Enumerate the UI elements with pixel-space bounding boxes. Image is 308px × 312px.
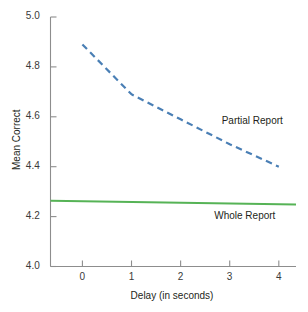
- x-axis-tick-label: 1: [124, 271, 140, 282]
- series-label-partial-report: Partial Report: [222, 115, 283, 126]
- y-axis-tick-label: 4.8: [14, 60, 40, 71]
- x-axis-tick-label: 0: [74, 271, 90, 282]
- series-label-whole-report: Whole Report: [214, 210, 275, 221]
- y-axis-tick-label: 4.0: [14, 260, 40, 271]
- chart-plot-area: [0, 0, 308, 312]
- y-axis-title: Mean Correct: [11, 109, 22, 170]
- axis-ticks: [51, 17, 279, 267]
- x-axis-tick-label: 3: [222, 271, 238, 282]
- axis-lines: [51, 17, 297, 267]
- y-axis-tick-label: 4.2: [14, 210, 40, 221]
- x-axis-tick-label: 2: [173, 271, 189, 282]
- chart-figure: 4.04.24.44.64.85.0 01234 Mean Correct De…: [0, 0, 308, 312]
- series-line-whole-report: [51, 201, 297, 205]
- x-axis-tick-label: 4: [271, 271, 287, 282]
- series-line-partial-report: [82, 44, 278, 166]
- y-axis-tick-label: 5.0: [14, 10, 40, 21]
- x-axis-title: Delay (in seconds): [0, 290, 308, 301]
